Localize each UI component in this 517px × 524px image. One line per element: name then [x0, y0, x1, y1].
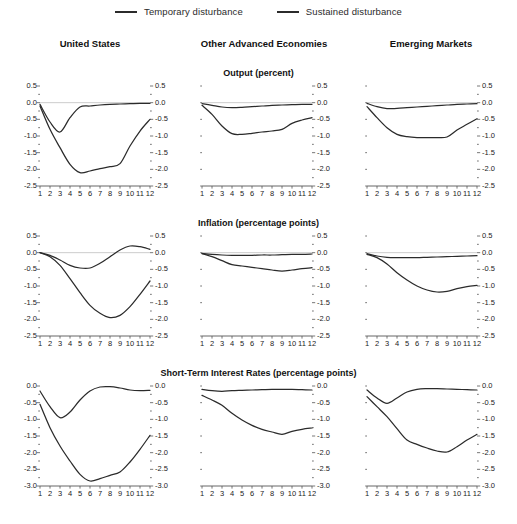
panel-inflation-emerging-markets: 0.50.0-0.5-1.0-1.5-2.0-2.512345678910111… — [345, 232, 513, 357]
panel-inflation-united-states: 0.50.0-0.5-1.0-1.5-2.0-2.50.50.0-0.5-1.0… — [8, 232, 176, 357]
series-line-sustained — [202, 395, 312, 434]
y-tick-label: -1.0 — [155, 282, 168, 290]
x-tick-label: 3 — [385, 190, 389, 198]
x-tick-label: 4 — [230, 340, 234, 348]
y-tick-label: -1.0 — [482, 282, 495, 290]
y-tick-label: -1.5 — [482, 149, 495, 157]
x-tick-label: 3 — [385, 340, 389, 348]
x-tick-label: 7 — [425, 190, 429, 198]
y-tick-label: -2.5 — [155, 332, 168, 340]
series-line-temporary — [40, 103, 150, 132]
x-tick-label: 11 — [463, 490, 471, 498]
x-tick-label: 2 — [48, 340, 52, 348]
y-tick-label: -0.5 — [24, 399, 37, 407]
y-axis-tick-labels-right: 0.50.0-0.5-1.0-1.5-2.0-2.5 — [482, 86, 508, 194]
x-tick-label: 8 — [435, 340, 439, 348]
y-tick-label: -2.5 — [482, 182, 495, 190]
x-tick-label: 9 — [445, 190, 449, 198]
y-tick-label: -0.5 — [482, 266, 495, 274]
x-tick-label: 11 — [136, 340, 144, 348]
x-tick-label: 8 — [270, 490, 274, 498]
x-tick-label: 12 — [473, 340, 481, 348]
panel-row-inflation: 0.50.0-0.5-1.0-1.5-2.0-2.50.50.0-0.5-1.0… — [0, 232, 517, 357]
plot-area — [40, 86, 150, 186]
x-tick-label: 1 — [200, 490, 204, 498]
plot-svg — [367, 386, 477, 486]
x-tick-label: 9 — [445, 340, 449, 348]
y-axis-tick-labels-right: 0.50.0-0.5-1.0-1.5-2.0-2.5 — [317, 236, 343, 344]
y-tick-label: -0.5 — [155, 116, 168, 124]
x-tick-label: 6 — [88, 490, 92, 498]
y-tick-label: -1.5 — [155, 432, 168, 440]
column-header-united-states: United States — [0, 38, 180, 49]
x-tick-label: 5 — [405, 190, 409, 198]
series-line-temporary — [202, 389, 312, 391]
x-tick-label: 10 — [126, 190, 134, 198]
y-tick-label: -2.5 — [24, 182, 37, 190]
y-tick-label: 0.5 — [482, 82, 492, 90]
x-tick-label: 4 — [68, 490, 72, 498]
y-axis-tick-labels-left: 0.0-0.5-1.0-1.5-2.0-2.5-3.0 — [11, 386, 37, 494]
y-tick-label: -2.5 — [317, 332, 330, 340]
x-tick-label: 11 — [136, 490, 144, 498]
x-tick-label: 3 — [220, 340, 224, 348]
x-tick-label: 3 — [58, 190, 62, 198]
x-tick-label: 12 — [146, 340, 154, 348]
y-tick-label: -0.5 — [482, 116, 495, 124]
y-tick-label: -3.0 — [317, 482, 330, 490]
series-line-temporary — [202, 104, 312, 108]
x-tick-label: 2 — [48, 190, 52, 198]
x-axis-tick-labels: 123456789101112 — [367, 490, 477, 502]
y-tick-label: -1.0 — [317, 416, 330, 424]
column-headers: United States Other Advanced Economies E… — [0, 38, 517, 52]
panel-row-output: 0.50.0-0.5-1.0-1.5-2.0-2.50.50.0-0.5-1.0… — [0, 82, 517, 207]
column-header-emerging-markets: Emerging Markets — [345, 38, 517, 49]
plot-area — [202, 386, 312, 486]
y-tick-label: -1.0 — [24, 416, 37, 424]
x-tick-label: 12 — [473, 190, 481, 198]
x-tick-label: 11 — [298, 340, 306, 348]
x-tick-label: 11 — [463, 190, 471, 198]
x-tick-label: 9 — [118, 490, 122, 498]
x-tick-label: 11 — [298, 190, 306, 198]
y-axis-tick-labels-right: 0.50.0-0.5-1.0-1.5-2.0-2.5 — [155, 86, 181, 194]
x-tick-label: 12 — [308, 190, 316, 198]
series-line-temporary — [367, 389, 477, 404]
legend-item-sustained: Sustained disturbance — [277, 6, 402, 17]
x-tick-label: 1 — [365, 190, 369, 198]
x-tick-label: 5 — [240, 190, 244, 198]
x-tick-label: 10 — [126, 490, 134, 498]
y-tick-label: -2.0 — [24, 449, 37, 457]
y-tick-label: -2.0 — [317, 316, 330, 324]
x-tick-label: 7 — [260, 190, 264, 198]
x-tick-label: 2 — [210, 190, 214, 198]
x-axis-tick-labels: 123456789101112 — [40, 190, 150, 202]
y-axis-tick-labels-right: 0.0-0.5-1.0-1.5-2.0-2.5-3.0 — [155, 386, 181, 494]
x-tick-label: 10 — [453, 190, 461, 198]
row-title-short-term-interest-rates: Short-Term Interest Rates (percentage po… — [0, 368, 517, 378]
series-line-temporary — [202, 253, 312, 255]
y-tick-label: -2.0 — [155, 166, 168, 174]
x-tick-label: 10 — [288, 490, 296, 498]
x-tick-label: 2 — [375, 340, 379, 348]
y-tick-label: 0.0 — [155, 249, 165, 257]
y-tick-label: -0.5 — [317, 116, 330, 124]
y-tick-label: -1.5 — [482, 432, 495, 440]
x-axis-tick-labels: 123456789101112 — [202, 340, 312, 352]
panel-row-short-term-interest-rates: 0.0-0.5-1.0-1.5-2.0-2.5-3.00.0-0.5-1.0-1… — [0, 382, 517, 507]
x-tick-label: 8 — [270, 340, 274, 348]
x-tick-label: 12 — [308, 490, 316, 498]
y-tick-label: -2.5 — [482, 466, 495, 474]
x-tick-label: 1 — [38, 340, 42, 348]
x-tick-label: 9 — [118, 190, 122, 198]
plot-svg — [40, 86, 150, 186]
x-tick-label: 8 — [435, 190, 439, 198]
x-tick-label: 3 — [220, 490, 224, 498]
y-tick-label: -2.5 — [155, 466, 168, 474]
y-tick-label: 0.5 — [482, 232, 492, 240]
y-tick-label: -2.0 — [155, 449, 168, 457]
y-tick-label: -1.0 — [317, 282, 330, 290]
y-tick-label: -1.5 — [317, 299, 330, 307]
x-tick-label: 9 — [280, 490, 284, 498]
series-line-temporary — [40, 246, 150, 269]
